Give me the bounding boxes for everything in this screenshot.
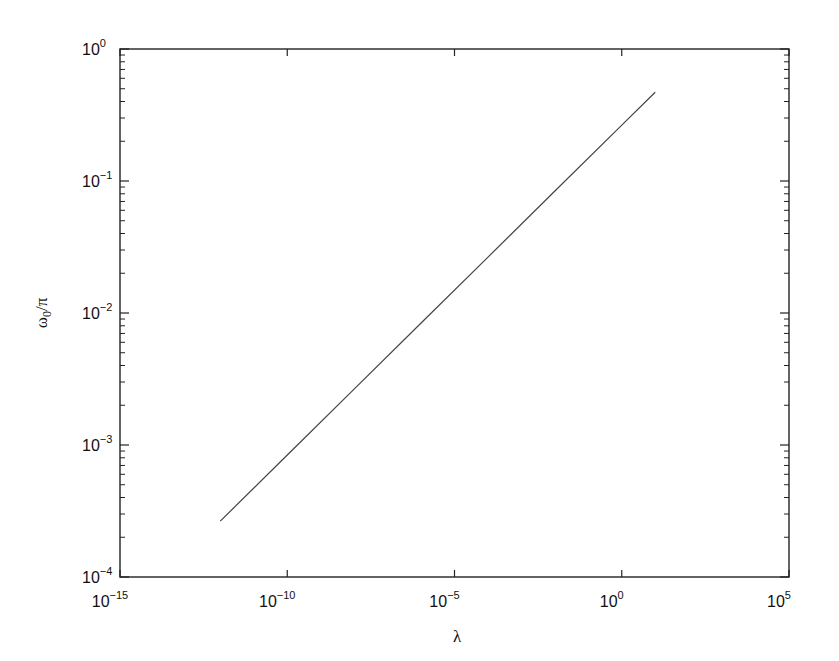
- y-tick-label: 10−3: [82, 433, 112, 454]
- y-tick-label: 10−1: [82, 169, 112, 190]
- data-line: [220, 92, 655, 521]
- y-tick-label: 10−2: [82, 301, 112, 322]
- x-tick-label: 10−15: [92, 589, 128, 610]
- x-tick-labels: 10−1510−1010−5100105: [92, 589, 791, 610]
- x-tick-label: 105: [767, 589, 791, 610]
- x-tick-label: 10−5: [429, 589, 459, 610]
- x-tick-label: 100: [600, 589, 624, 610]
- x-axis-label: λ: [453, 627, 462, 646]
- plot-frame: [120, 49, 789, 577]
- major-ticks: [120, 49, 789, 577]
- y-tick-label: 100: [82, 37, 106, 58]
- y-tick-label: 10−4: [82, 565, 112, 586]
- x-tick-label: 10−10: [259, 589, 295, 610]
- chart: 10−1510−1010−5100105 10010−110−210−310−4…: [0, 0, 839, 661]
- minor-ticks: [120, 55, 789, 537]
- y-tick-labels: 10010−110−210−310−4: [82, 37, 112, 586]
- y-axis-label: ω0/π: [32, 297, 54, 328]
